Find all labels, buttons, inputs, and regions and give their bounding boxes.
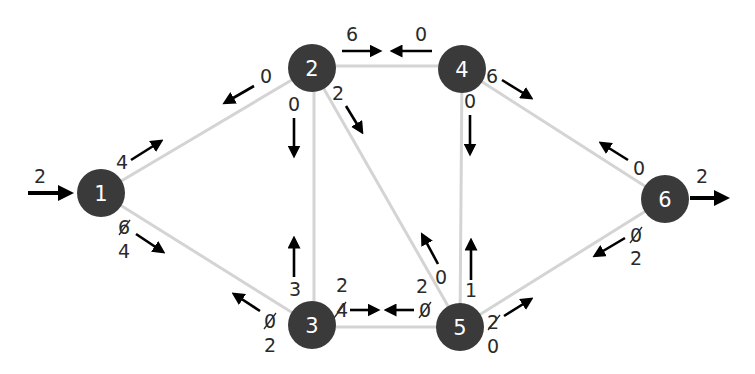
edge-1-2 xyxy=(101,68,312,193)
flow-label-e45-fwd: 0 xyxy=(464,90,476,112)
flow-label-e24-fwd: 6 xyxy=(346,23,358,45)
edges xyxy=(101,66,665,327)
flow-label-e23-fwd: 0 xyxy=(288,93,300,115)
node-label: 5 xyxy=(453,316,466,340)
arrow-e13-fwd-icon xyxy=(136,234,160,250)
node-2: 2 xyxy=(288,44,336,92)
edge-2-5 xyxy=(312,68,460,327)
flow-label-e35-back-top: 2 xyxy=(416,275,428,297)
flow-label-e46-back: 0 xyxy=(633,157,645,179)
arrow-e25-back-icon xyxy=(424,238,438,264)
flow-label-e13-fwd: 4 xyxy=(118,240,130,262)
flow-network-diagram: 2 2 4 0 6 4 0 2 0 3 6 0 2 0 2 4 2 0 0 1 … xyxy=(0,0,755,374)
flow-label-e35-fwd-top: 2 xyxy=(336,274,348,296)
arrowhead-icon xyxy=(58,185,74,201)
node-4: 4 xyxy=(438,45,486,93)
edge-4-5 xyxy=(460,69,462,327)
flow-label-e24-back: 0 xyxy=(415,23,427,45)
node-3: 3 xyxy=(288,301,336,349)
source-flow-label: 2 xyxy=(34,165,46,187)
flow-label-e46-fwd: 6 xyxy=(486,65,498,87)
flow-label-e25-fwd: 2 xyxy=(332,82,344,104)
sink-flow-label: 2 xyxy=(696,165,708,187)
arrow-e46-fwd-icon xyxy=(502,80,528,96)
flow-label-e56-fwd-bottom: 0 xyxy=(487,335,499,357)
flow-label-e56-back-bottom: 2 xyxy=(630,247,642,269)
node-label: 1 xyxy=(94,182,107,206)
flow-label-e45-back: 1 xyxy=(465,279,477,301)
flow-label-e25-back: 0 xyxy=(435,266,447,288)
edge-1-3 xyxy=(101,193,312,325)
flow-label-e12-fwd: 4 xyxy=(116,151,128,173)
node-1: 1 xyxy=(77,169,125,217)
node-label: 3 xyxy=(305,314,318,338)
node-label: 4 xyxy=(455,58,468,82)
arrow-e46-back-icon xyxy=(604,145,628,160)
arrowhead-icon xyxy=(714,190,730,206)
node-label: 2 xyxy=(305,57,318,81)
node-label: 6 xyxy=(658,188,671,212)
arrow-e12-back-icon xyxy=(228,86,254,101)
arrow-e13-back-icon xyxy=(237,296,260,311)
node-6: 6 xyxy=(641,175,689,223)
flow-labels: 2 2 4 0 6 4 0 2 0 3 6 0 2 0 2 4 2 0 0 1 … xyxy=(34,23,708,357)
flow-label-e13-back: 2 xyxy=(264,334,276,356)
arrow-e56-back-icon xyxy=(598,238,625,254)
node-5: 5 xyxy=(436,303,484,351)
arrow-e56-fwd-icon xyxy=(504,301,528,316)
arrow-e25-fwd-icon xyxy=(346,106,360,129)
arrow-e12-fwd-icon xyxy=(131,143,158,160)
flow-label-e23-back: 3 xyxy=(289,278,301,300)
edge-4-6 xyxy=(462,69,665,199)
nodes: 1 2 3 4 5 6 xyxy=(77,44,689,351)
flow-label-e12-back: 0 xyxy=(260,65,272,87)
